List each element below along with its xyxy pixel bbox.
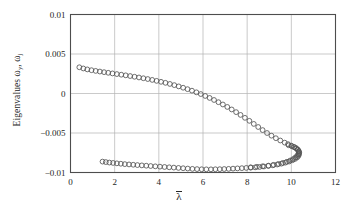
data-point [181, 166, 186, 171]
y-axis-label-omega-1: ω [11, 70, 21, 76]
y-axis-label-subscript-2: j [16, 54, 23, 56]
y-axis-label-separator: , [11, 62, 21, 67]
data-point [141, 76, 146, 81]
y-axis-tick-label: 0 [61, 89, 66, 99]
data-point [158, 164, 163, 169]
data-point [238, 113, 243, 118]
data-point [269, 133, 274, 138]
y-axis-label-omega-2: ω [11, 55, 21, 61]
data-series-lower-branch [100, 143, 302, 172]
data-point [225, 105, 230, 110]
plot-canvas: 024681012−0.01−0.00500.0050.01 [0, 0, 358, 216]
y-axis-tick-label: 0.005 [45, 49, 66, 59]
y-axis-tick-label: −0.005 [40, 128, 66, 138]
data-point [229, 107, 234, 112]
data-point [154, 78, 159, 83]
x-axis-tick-label: 6 [201, 177, 206, 187]
y-axis-label: Eigenvalues ωy, ωj [5, 0, 29, 180]
data-point [190, 166, 195, 171]
data-point [137, 75, 142, 80]
data-point [145, 77, 150, 82]
x-axis-tick-label: 2 [112, 177, 117, 187]
data-point [195, 167, 200, 172]
y-axis-tick-label: −0.01 [45, 168, 66, 178]
y-axis-label-prefix: Eigenvalues [11, 76, 21, 126]
data-point [199, 167, 204, 172]
x-axis-tick-label: 8 [245, 177, 250, 187]
eigenvalue-plot-figure: 024681012−0.01−0.00500.0050.01 Eigenvalu… [0, 0, 358, 216]
data-point [260, 128, 265, 133]
data-point [150, 78, 155, 83]
x-axis-label-symbol: λ [176, 190, 181, 202]
x-axis-tick-label: 12 [331, 177, 340, 187]
data-point [153, 164, 158, 169]
data-point [243, 115, 248, 120]
data-point [234, 110, 239, 115]
y-axis-label-subscript-1: y [16, 67, 23, 70]
x-axis-tick-label: 4 [157, 177, 162, 187]
data-point [247, 118, 252, 123]
data-point [204, 167, 209, 172]
data-series-upper-branch [77, 65, 301, 170]
y-axis-tick-label: 0.01 [50, 10, 66, 20]
data-point [176, 166, 181, 171]
data-point [185, 166, 190, 171]
x-axis-label: λ [0, 190, 358, 202]
x-axis-tick-label: 0 [68, 177, 73, 187]
data-point [220, 102, 225, 107]
data-point [162, 165, 167, 170]
data-point [167, 165, 172, 170]
data-point [256, 125, 261, 130]
data-point [171, 165, 176, 170]
data-point [251, 122, 256, 127]
x-axis-tick-label: 10 [287, 177, 297, 187]
